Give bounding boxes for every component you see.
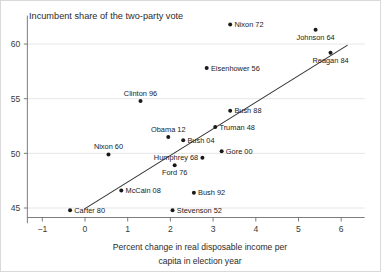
x-tick-label-6: 6 xyxy=(339,224,344,234)
point-label: Stevenson 52 xyxy=(177,206,222,215)
data-point: Bush 92 xyxy=(192,188,225,197)
data-point: McCain 08 xyxy=(119,186,161,195)
point-label: Reagan 84 xyxy=(312,56,348,65)
y-tick-label-45: 45 xyxy=(11,203,21,213)
point-marker xyxy=(139,99,143,103)
point-label: Humphrey 68 xyxy=(154,153,198,162)
point-marker xyxy=(106,152,110,156)
point-label: Ford 76 xyxy=(162,168,187,177)
point-label: Carter 80 xyxy=(74,206,105,215)
x-axis-label-line2: capita in election year xyxy=(158,256,241,266)
x-tick-label--1: −1 xyxy=(37,224,47,234)
data-point: Carter 80 xyxy=(68,206,105,215)
point-marker xyxy=(220,149,224,153)
point-marker xyxy=(68,208,72,212)
data-point: Humphrey 68 xyxy=(154,153,205,162)
point-label: Obama 12 xyxy=(151,125,186,134)
point-marker xyxy=(314,28,318,32)
data-point: Nixon 60 xyxy=(94,142,123,156)
data-point: Nixon 72 xyxy=(228,20,263,29)
point-marker xyxy=(329,51,333,55)
data-point: Stevenson 52 xyxy=(171,206,222,215)
x-tick-label-1: 1 xyxy=(125,224,130,234)
data-point: Johnson 64 xyxy=(296,28,334,42)
scatter-plot: Nixon 72Johnson 64Reagan 84Eisenhower 56… xyxy=(1,1,381,272)
point-label: Gore 00 xyxy=(226,147,253,156)
point-label: Bush 88 xyxy=(234,106,261,115)
data-point: Ford 76 xyxy=(162,163,187,177)
data-point: Obama 12 xyxy=(151,125,186,139)
point-label: McCain 08 xyxy=(125,186,160,195)
data-point: Truman 48 xyxy=(213,123,255,132)
point-marker xyxy=(228,22,232,26)
data-point: Bush 04 xyxy=(181,136,214,145)
y-tick-label-60: 60 xyxy=(11,39,21,49)
data-points: Nixon 72Johnson 64Reagan 84Eisenhower 56… xyxy=(68,20,349,215)
x-tick-label-2: 2 xyxy=(168,224,173,234)
point-label: Johnson 64 xyxy=(296,33,334,42)
point-label: Clinton 96 xyxy=(124,89,157,98)
x-tick-label-4: 4 xyxy=(253,224,258,234)
y-tick-label-50: 50 xyxy=(11,149,21,159)
chart-figure: Nixon 72Johnson 64Reagan 84Eisenhower 56… xyxy=(0,0,381,272)
point-marker xyxy=(205,66,209,70)
x-tick-label-0: 0 xyxy=(83,224,88,234)
point-marker xyxy=(200,156,204,160)
x-tick-label-3: 3 xyxy=(211,224,216,234)
point-label: Bush 04 xyxy=(187,136,214,145)
gridlines xyxy=(27,44,364,208)
point-marker xyxy=(192,191,196,195)
point-marker xyxy=(119,189,123,193)
point-marker xyxy=(173,163,177,167)
point-label: Bush 92 xyxy=(198,188,225,197)
data-point: Bush 88 xyxy=(228,106,261,115)
point-label: Truman 48 xyxy=(219,123,254,132)
point-label: Nixon 60 xyxy=(94,142,123,151)
x-axis-label-line1: Percent change in real disposable income… xyxy=(113,242,288,252)
point-label: Eisenhower 56 xyxy=(211,64,260,73)
point-marker xyxy=(181,138,185,142)
data-point: Eisenhower 56 xyxy=(205,64,260,73)
point-marker xyxy=(166,135,170,139)
point-label: Nixon 72 xyxy=(234,20,263,29)
point-marker xyxy=(213,125,217,129)
data-point: Reagan 84 xyxy=(312,51,348,65)
data-point: Clinton 96 xyxy=(124,89,157,103)
point-marker xyxy=(171,208,175,212)
x-tick-label-5: 5 xyxy=(296,224,301,234)
chart-title: Incumbent share of the two-party vote xyxy=(29,11,183,21)
y-tick-label-55: 55 xyxy=(11,94,21,104)
tick-labels: 45505560−10123456 xyxy=(11,39,344,233)
data-point: Gore 00 xyxy=(220,147,253,156)
point-marker xyxy=(228,109,232,113)
